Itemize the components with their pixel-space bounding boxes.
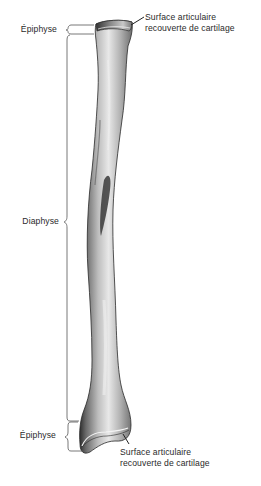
bone-shaft <box>80 20 133 453</box>
bone-figure <box>0 0 261 486</box>
bracket-diaphysis <box>64 35 79 421</box>
bracket-epiphysis-top <box>66 25 94 34</box>
leader-line-top <box>131 17 144 25</box>
